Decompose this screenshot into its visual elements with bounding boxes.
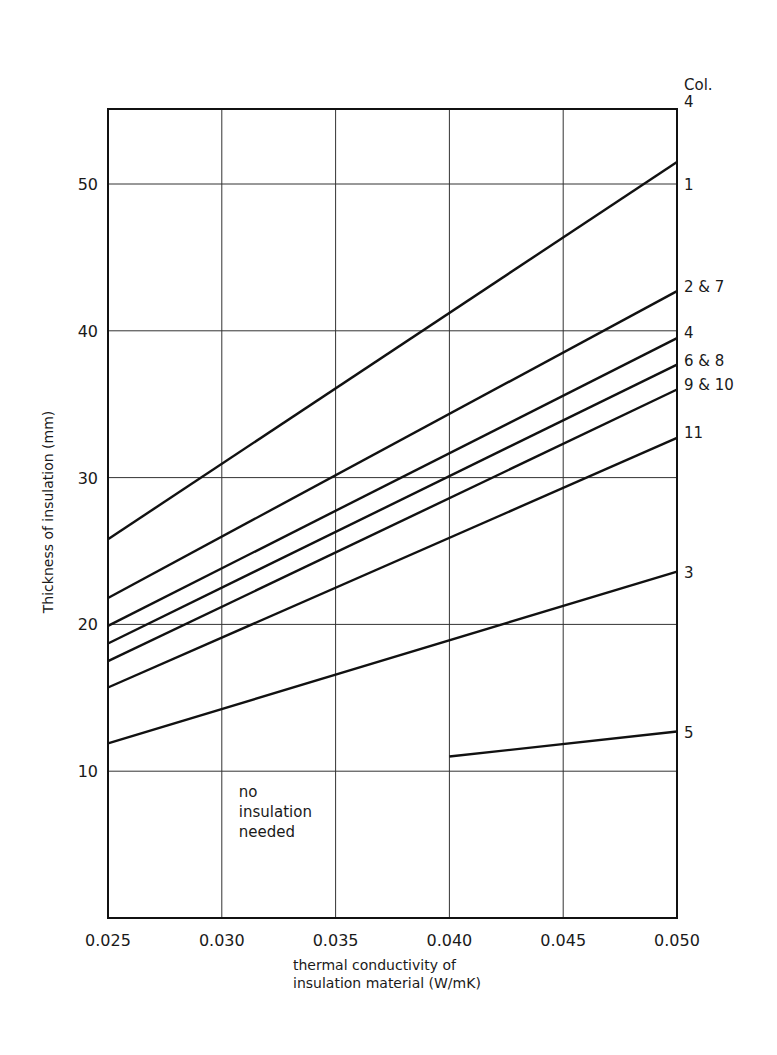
annotation-line: insulation [239,803,312,821]
series-line [108,390,677,662]
x-axis-label: thermal conductivity ofinsulation materi… [293,957,481,991]
y-tick-label: 10 [78,762,98,781]
y-axis-ticks: 1020304050 [78,175,98,781]
series-label: 4 [684,324,694,342]
series-line [108,572,677,744]
x-tick-label: 0.040 [426,931,472,950]
annotation-line: no [239,783,258,801]
y-tick-label: 30 [78,469,98,488]
series-line [108,438,677,688]
y-tick-label: 40 [78,322,98,341]
thickness-vs-conductivity-chart: 0.0250.0300.0350.0400.0450.050 102030405… [0,0,777,1055]
series-line [108,365,677,644]
y-axis-label: Thickness of insulation (mm) [40,411,56,614]
x-tick-label: 0.030 [199,931,245,950]
x-tick-label: 0.050 [654,931,700,950]
y-tick-label: 20 [78,615,98,634]
series-labels: 12 & 746 & 89 & 101135 [684,176,734,742]
legend-top-label: 4 [684,93,694,111]
annotation-line: needed [239,823,295,841]
plot-frame [108,109,677,918]
x-axis-ticks: 0.0250.0300.0350.0400.0450.050 [85,931,700,950]
series-label: 2 & 7 [684,278,724,296]
series-label: 5 [684,724,694,742]
x-tick-label: 0.025 [85,931,131,950]
series-label: 11 [684,424,703,442]
x-tick-label: 0.045 [540,931,586,950]
x-tick-label: 0.035 [313,931,359,950]
gridlines [108,109,677,918]
series-label: 9 & 10 [684,376,734,394]
series-lines [108,162,677,757]
y-tick-label: 50 [78,175,98,194]
series-label: 3 [684,564,694,582]
series-label: 1 [684,176,694,194]
series-label: 6 & 8 [684,352,724,370]
no-insulation-annotation: noinsulationneeded [239,783,312,841]
series-line [108,291,677,598]
legend-header: Col. [684,76,713,94]
